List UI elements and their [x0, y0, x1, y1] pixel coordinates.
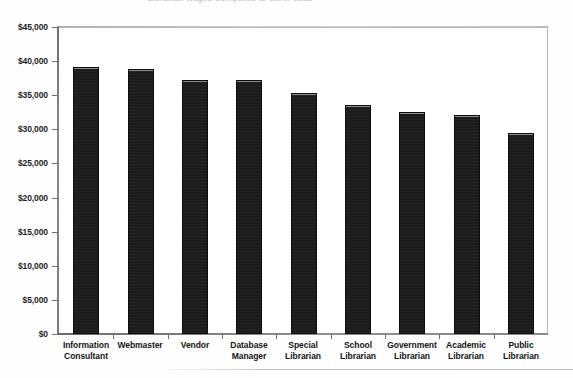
y-axis-tick-label: $20,000 [0, 193, 48, 203]
bar [128, 69, 154, 334]
y-axis-tick-label: $25,000 [0, 158, 48, 168]
x-axis-tick [439, 334, 440, 339]
x-axis-category-label: Vendor [164, 340, 226, 351]
y-axis-tick-label: $5,000 [0, 295, 48, 305]
x-axis-category-label: AcademicLibrarian [435, 340, 497, 361]
category-label-line: Vendor [164, 340, 226, 351]
category-label-line: Special [272, 340, 334, 351]
bar [345, 105, 371, 334]
category-label-line: Librarian [327, 351, 389, 362]
x-axis-category-label: SpecialLibrarian [272, 340, 334, 361]
x-axis-tick [331, 334, 332, 339]
y-axis-line [57, 27, 59, 335]
x-axis-category-label: Webmaster [109, 340, 171, 351]
chart-title: Librarian Wages Compared to Other Jobs [100, 0, 360, 4]
y-axis-tick [52, 163, 58, 164]
category-label-line: Academic [435, 340, 497, 351]
y-axis-tick [52, 129, 58, 130]
x-axis-category-label: GovernmentLibrarian [381, 340, 443, 361]
x-axis-category-label: InformationConsultant [55, 340, 117, 361]
x-axis-tick [276, 334, 277, 339]
y-axis-tick-label: $0 [0, 329, 48, 339]
y-axis-tick-label: $30,000 [0, 124, 48, 134]
y-axis-tick-label: $10,000 [0, 261, 48, 271]
category-label-line: Librarian [381, 351, 443, 362]
y-axis-tick [52, 27, 58, 28]
y-axis-tick [52, 334, 58, 335]
y-axis-tick-label: $45,000 [0, 22, 48, 32]
x-axis-tick [168, 334, 169, 339]
category-label-line: Government [381, 340, 443, 351]
bar [73, 67, 99, 334]
y-axis-tick [52, 198, 58, 199]
x-axis-tick [385, 334, 386, 339]
category-label-line: Consultant [55, 351, 117, 362]
x-axis-category-label: SchoolLibrarian [327, 340, 389, 361]
y-axis-tick [52, 266, 58, 267]
bar [454, 115, 480, 334]
y-axis-tick-label: $40,000 [0, 56, 48, 66]
x-axis-tick [494, 334, 495, 339]
x-axis-tick [113, 334, 114, 339]
category-label-line: Manager [218, 351, 280, 362]
bar [508, 133, 534, 334]
y-axis-tick [52, 95, 58, 96]
y-axis-tick [52, 300, 58, 301]
bar [399, 112, 425, 334]
y-axis-tick-label: $35,000 [0, 90, 48, 100]
category-label-line: Librarian [490, 351, 552, 362]
bar [291, 93, 317, 334]
category-label-line: Public [490, 340, 552, 351]
page-scan-artifact-line [160, 369, 573, 370]
chart-page: Librarian Wages Compared to Other Jobs $… [0, 0, 573, 378]
x-axis-tick [222, 334, 223, 339]
y-axis-tick-label: $15,000 [0, 227, 48, 237]
category-label-line: Librarian [435, 351, 497, 362]
y-axis-tick [52, 61, 58, 62]
category-label-line: Librarian [272, 351, 334, 362]
x-axis-category-label: DatabaseManager [218, 340, 280, 361]
y-axis-tick [52, 232, 58, 233]
bar [236, 80, 262, 334]
category-label-line: Webmaster [109, 340, 171, 351]
category-label-line: Information [55, 340, 117, 351]
category-label-line: School [327, 340, 389, 351]
bar [182, 80, 208, 334]
category-label-line: Database [218, 340, 280, 351]
x-axis-category-label: PublicLibrarian [490, 340, 552, 361]
